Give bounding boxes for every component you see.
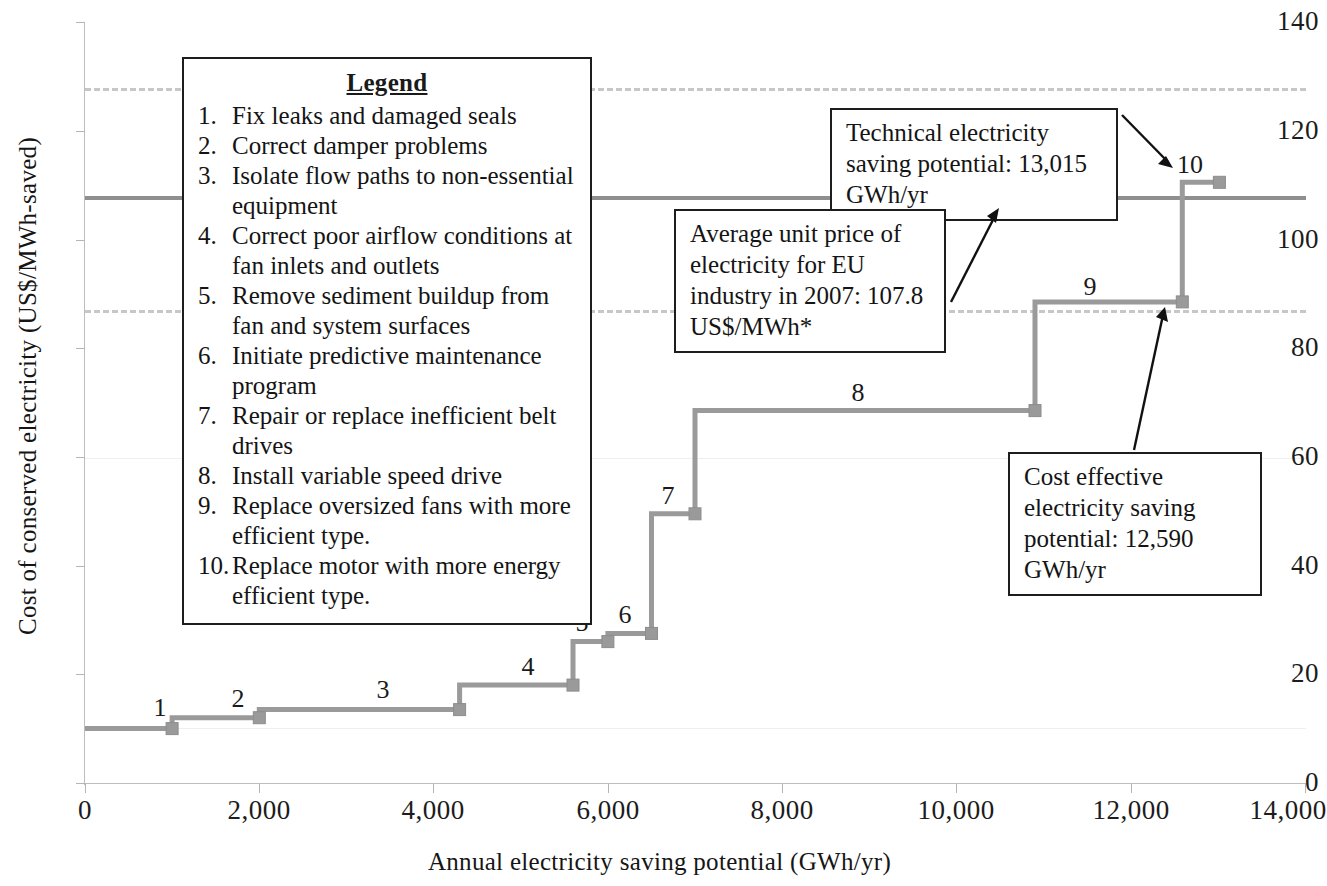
callout-average-unit-price: Average unit price of electricity for EU…	[674, 209, 946, 353]
y-tick-80	[76, 348, 85, 349]
y-tick-label-40: 40	[1255, 552, 1319, 579]
legend-item-number: 5.	[198, 281, 232, 311]
legend-item-5: 5. Remove sediment buildup from fan and …	[198, 281, 576, 341]
y-tick-140	[76, 22, 85, 23]
step-marker-7	[689, 508, 701, 520]
legend-item-6: 6. Initiate predictive maintenance progr…	[198, 341, 576, 401]
step-label-10: 10	[1177, 150, 1203, 180]
legend-item-number: 4.	[198, 221, 232, 251]
step-label-4: 4	[522, 652, 535, 682]
x-tick-label-2000: 2,000	[227, 796, 290, 824]
y-tick-label-120: 120	[1255, 117, 1319, 144]
callout-technical-potential: Technical electricity saving potential: …	[830, 108, 1118, 221]
legend-item-number: 7.	[198, 401, 232, 431]
step-label-9: 9	[1084, 272, 1097, 302]
legend-item-number: 2.	[198, 131, 232, 161]
x-tick-label-6000: 6,000	[576, 796, 639, 824]
y-tick-0	[76, 783, 85, 784]
y-tick-label-100: 100	[1255, 226, 1319, 253]
step-marker-4	[567, 679, 579, 691]
x-tick-label-0: 0	[78, 796, 92, 824]
y-axis-title: Cost of conserved electricity (US$/MWh-s…	[14, 26, 42, 746]
step-marker-10	[1213, 176, 1225, 188]
legend-item-2: 2. Correct damper problems	[198, 131, 576, 161]
legend-item-label: Correct poor airflow conditions at fan i…	[232, 221, 576, 281]
y-tick-label-60: 60	[1255, 443, 1319, 470]
legend-item-1: 1. Fix leaks and damaged seals	[198, 101, 576, 131]
x-tick-label-4000: 4,000	[401, 796, 464, 824]
x-tick-6000	[608, 784, 609, 793]
x-axis-title: Annual electricity saving potential (GWh…	[0, 848, 1319, 876]
step-label-6: 6	[619, 600, 632, 630]
x-tick-10000	[956, 784, 957, 793]
x-tick-label-10000: 10,000	[917, 796, 994, 824]
y-tick-120	[76, 131, 85, 132]
step-marker-6	[646, 627, 658, 639]
step-marker-5	[602, 636, 614, 648]
legend-item-label: Replace motor with more energy efficient…	[232, 551, 576, 611]
legend-item-10: 10. Replace motor with more energy effic…	[198, 551, 576, 611]
legend-item-9: 9. Replace oversized fans with more effi…	[198, 491, 576, 551]
legend-item-label: Remove sediment buildup from fan and sys…	[232, 281, 576, 341]
legend-item-number: 6.	[198, 341, 232, 371]
legend-item-8: 8. Install variable speed drive	[198, 461, 576, 491]
step-marker-2	[253, 712, 265, 724]
step-marker-3	[454, 704, 466, 716]
legend-item-3: 3. Isolate flow paths to non-essential e…	[198, 161, 576, 221]
legend-item-label: Correct damper problems	[232, 131, 576, 161]
x-tick-12000	[1131, 784, 1132, 793]
x-tick-0	[85, 784, 86, 793]
y-tick-label-80: 80	[1255, 334, 1319, 361]
y-tick-100	[76, 240, 85, 241]
legend-item-number: 10.	[198, 551, 232, 581]
x-tick-label-8000: 8,000	[750, 796, 813, 824]
legend-item-number: 8.	[198, 461, 232, 491]
step-label-1: 1	[154, 693, 167, 723]
legend-item-4: 4. Correct poor airflow conditions at fa…	[198, 221, 576, 281]
step-label-7: 7	[662, 481, 675, 511]
x-tick-label-14000: 14,000	[1249, 796, 1326, 824]
legend-item-7: 7. Repair or replace inefficient belt dr…	[198, 401, 576, 461]
legend-title: Legend	[198, 69, 576, 97]
step-label-3: 3	[377, 675, 390, 705]
legend-item-number: 9.	[198, 491, 232, 521]
y-tick-20	[76, 674, 85, 675]
callout-cost-effective-potential: Cost effective electricity saving potent…	[1008, 452, 1262, 596]
step-label-8: 8	[852, 378, 865, 408]
legend-item-label: Initiate predictive maintenance program	[232, 341, 576, 401]
legend-item-label: Fix leaks and damaged seals	[232, 101, 576, 131]
arrow-average-price-icon	[951, 208, 999, 302]
step-marker-8	[1029, 405, 1041, 417]
legend-item-number: 3.	[198, 161, 232, 191]
legend-item-label: Repair or replace inefficient belt drive…	[232, 401, 576, 461]
legend-item-label: Replace oversized fans with more efficie…	[232, 491, 576, 551]
legend-item-label: Install variable speed drive	[232, 461, 576, 491]
x-axis	[85, 783, 1306, 784]
gridline-10	[85, 728, 1306, 729]
x-tick-8000	[782, 784, 783, 793]
y-axis	[84, 22, 85, 785]
x-tick-2000	[259, 784, 260, 793]
y-tick-label-20: 20	[1255, 660, 1319, 687]
x-tick-label-12000: 12,000	[1092, 796, 1169, 824]
y-tick-label-140: 140	[1255, 8, 1319, 35]
step-label-2: 2	[232, 684, 245, 714]
y-tick-label-0: 0	[1255, 769, 1319, 796]
x-tick-4000	[433, 784, 434, 793]
y-tick-60	[76, 457, 85, 458]
x-tick-14000	[1305, 784, 1306, 793]
arrow-technical-icon	[1122, 115, 1173, 168]
legend-item-number: 1.	[198, 101, 232, 131]
legend-item-label: Isolate flow paths to non-essential equi…	[232, 161, 576, 221]
legend-list: 1. Fix leaks and damaged seals 2. Correc…	[198, 101, 576, 611]
step-marker-9	[1176, 296, 1188, 308]
legend-box: Legend 1. Fix leaks and damaged seals 2.…	[182, 57, 592, 625]
y-tick-40	[76, 566, 85, 567]
arrow-cost-effective-icon	[1134, 307, 1168, 450]
